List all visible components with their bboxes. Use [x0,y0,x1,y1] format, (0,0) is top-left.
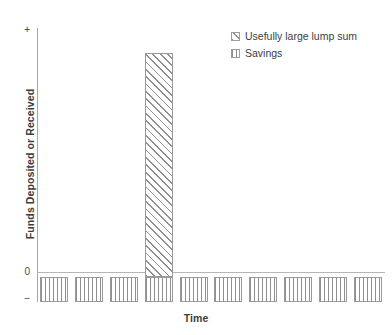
bar-savings-1 [40,277,68,302]
bar-lump-sum-4 [145,53,173,277]
legend-item-lump-sum: Usefully large lump sum [231,29,391,44]
vertical-stripe-swatch-icon [231,49,240,58]
legend-item-label: Usefully large lump sum [245,31,357,42]
y-tick-label-minus: − [8,293,30,304]
bar-savings-9 [319,277,347,302]
plot-area [37,28,385,302]
bar-savings-2 [75,277,103,302]
bar-savings-3 [110,277,138,302]
bar-savings-6 [214,277,242,302]
y-tick-label-zero: 0 [8,266,30,277]
legend-item-savings: Savings [231,46,391,61]
legend-item-label: Savings [245,48,282,59]
y-axis-title: Funds Deposited or Received [24,64,36,264]
x-axis-title: Time [0,312,392,324]
bar-savings-8 [284,277,312,302]
bar-savings-4 [145,277,173,302]
chart-legend: Usefully large lump sum Savings [231,29,391,63]
bar-savings-5 [180,277,208,302]
diagonal-hatch-swatch-icon [231,32,240,41]
bar-savings-7 [249,277,277,302]
y-tick-label-plus: + [8,24,30,35]
bar-chart: Funds Deposited or Received + 0 − Time U… [0,0,392,335]
bar-savings-10 [354,277,382,302]
